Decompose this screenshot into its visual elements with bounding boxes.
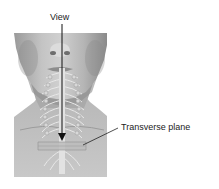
neck-anatomy-diagram: View Transverse plane xyxy=(0,0,219,189)
transverse-plane-label: Transverse plane xyxy=(121,123,190,132)
view-label: View xyxy=(50,13,69,22)
diagram-illustration xyxy=(0,0,219,189)
transverse-plane xyxy=(38,142,86,150)
